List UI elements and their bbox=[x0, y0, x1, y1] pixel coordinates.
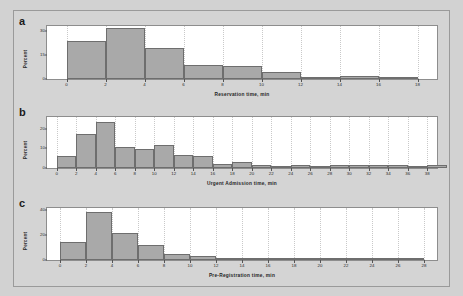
x-axis-tick-label: 26 bbox=[396, 264, 401, 268]
gridline-vertical bbox=[320, 208, 321, 260]
panel-c: c Percent 020400246810121416182022242628… bbox=[14, 195, 451, 286]
histogram-bar bbox=[216, 258, 242, 260]
histogram-bar bbox=[262, 72, 301, 79]
x-axis-tick-label: 14 bbox=[240, 264, 245, 268]
histogram-bar bbox=[271, 166, 291, 168]
gridline-vertical bbox=[427, 117, 428, 168]
x-axis-tick-label: 8 bbox=[134, 172, 136, 176]
panel-b-plot-area: 0102002468101214161820222426283032343638 bbox=[46, 116, 438, 169]
x-axis-tick-label: 14 bbox=[337, 83, 342, 87]
histogram-bar bbox=[301, 77, 340, 79]
histogram-bar bbox=[76, 134, 96, 168]
histogram-bar bbox=[154, 145, 174, 168]
x-axis-tick-label: 10 bbox=[259, 83, 264, 87]
histogram-bar bbox=[398, 258, 424, 260]
y-axis-tick-mark bbox=[45, 148, 48, 149]
gridline-vertical bbox=[424, 208, 425, 260]
histogram-bar bbox=[86, 212, 112, 260]
gridline-vertical bbox=[164, 208, 165, 260]
histogram-bar bbox=[379, 77, 418, 79]
figure-frame: a Percent 01530024681012141618 Reservati… bbox=[13, 10, 450, 287]
histogram-bar bbox=[67, 41, 106, 79]
panel-a: a Percent 01530024681012141618 Reservati… bbox=[14, 13, 451, 104]
x-axis-tick-label: 22 bbox=[344, 264, 349, 268]
histogram-bar bbox=[223, 66, 262, 79]
panel-c-xlabel: Pre-Registration time, min bbox=[46, 273, 438, 278]
x-axis-tick-label: 2 bbox=[75, 172, 77, 176]
gridline-vertical bbox=[232, 117, 233, 168]
y-axis-tick-mark bbox=[45, 30, 48, 31]
x-axis-tick-label: 0 bbox=[56, 172, 58, 176]
histogram-bar bbox=[294, 258, 320, 260]
panel-c-plot-area: 020400246810121416182022242628 bbox=[46, 207, 438, 261]
histogram-bar bbox=[190, 256, 216, 260]
histogram-bar bbox=[193, 156, 213, 168]
panel-a-letter: a bbox=[19, 16, 25, 27]
gridline-vertical bbox=[346, 208, 347, 260]
histogram-bar bbox=[213, 164, 233, 168]
gridline-vertical bbox=[369, 117, 370, 168]
x-axis-tick-label: 6 bbox=[137, 264, 139, 268]
panel-b-ylabel: Percent bbox=[23, 140, 28, 158]
gridline-vertical bbox=[271, 117, 272, 168]
x-axis-tick-label: 20 bbox=[318, 264, 323, 268]
x-axis-tick-label: 22 bbox=[269, 172, 274, 176]
panel-a-xlabel: Reservation time, min bbox=[46, 92, 438, 97]
x-axis-tick-label: 4 bbox=[143, 83, 145, 87]
gridline-vertical bbox=[268, 208, 269, 260]
histogram-bar bbox=[57, 156, 77, 168]
x-axis-tick-label: 18 bbox=[292, 264, 297, 268]
gridline-vertical bbox=[398, 208, 399, 260]
gridline-vertical bbox=[408, 117, 409, 168]
gridline-vertical bbox=[379, 26, 380, 79]
panel-b-letter: b bbox=[19, 107, 26, 118]
y-axis-tick-mark bbox=[45, 260, 48, 261]
panel-c-letter: c bbox=[19, 198, 25, 209]
gridline-vertical bbox=[310, 117, 311, 168]
gridline-vertical bbox=[252, 117, 253, 168]
x-axis-tick-label: 4 bbox=[111, 264, 113, 268]
y-axis-tick-mark bbox=[45, 79, 48, 80]
histogram-bar bbox=[106, 28, 145, 79]
histogram-bar bbox=[408, 166, 428, 168]
x-axis-tick-label: 12 bbox=[214, 264, 219, 268]
y-axis-tick-mark bbox=[45, 54, 48, 55]
gridline-vertical bbox=[330, 117, 331, 168]
panel-b: b Percent 010200246810121416182022242628… bbox=[14, 104, 451, 195]
gridline-vertical bbox=[242, 208, 243, 260]
x-axis-tick-label: 12 bbox=[298, 83, 303, 87]
x-axis-tick-label: 12 bbox=[171, 172, 176, 176]
histogram-bar bbox=[112, 233, 138, 260]
x-axis-tick-label: 4 bbox=[95, 172, 97, 176]
x-axis-tick-label: 24 bbox=[370, 264, 375, 268]
histogram-bar bbox=[135, 149, 155, 168]
gridline-vertical bbox=[301, 26, 302, 79]
gridline-vertical bbox=[294, 208, 295, 260]
panel-a-ylabel: Percent bbox=[23, 49, 28, 67]
x-axis-tick-label: 2 bbox=[104, 83, 106, 87]
x-axis-tick-label: 0 bbox=[59, 264, 61, 268]
y-axis-tick-mark bbox=[45, 210, 48, 211]
gridline-vertical bbox=[190, 208, 191, 260]
x-axis-tick-label: 14 bbox=[191, 172, 196, 176]
gridline-vertical bbox=[388, 117, 389, 168]
panel-a-plot-area: 01530024681012141618 bbox=[46, 25, 438, 80]
histogram-bar bbox=[164, 254, 190, 260]
histogram-bar bbox=[330, 165, 350, 168]
histogram-bar bbox=[372, 258, 398, 260]
histogram-bar bbox=[115, 147, 135, 168]
gridline-vertical bbox=[340, 26, 341, 79]
figure-container: a Percent 01530024681012141618 Reservati… bbox=[0, 0, 463, 296]
histogram-bar bbox=[310, 166, 330, 168]
histogram-bar bbox=[60, 242, 86, 260]
x-axis-tick-label: 32 bbox=[366, 172, 371, 176]
x-axis-tick-label: 6 bbox=[182, 83, 184, 87]
histogram-bar bbox=[388, 165, 408, 168]
histogram-bar bbox=[369, 165, 389, 168]
x-axis-tick-label: 10 bbox=[188, 264, 193, 268]
histogram-bar bbox=[242, 258, 268, 260]
gridline-vertical bbox=[418, 26, 419, 79]
x-axis-tick-label: 16 bbox=[376, 83, 381, 87]
gridline-vertical bbox=[372, 208, 373, 260]
x-axis-tick-label: 8 bbox=[163, 264, 165, 268]
